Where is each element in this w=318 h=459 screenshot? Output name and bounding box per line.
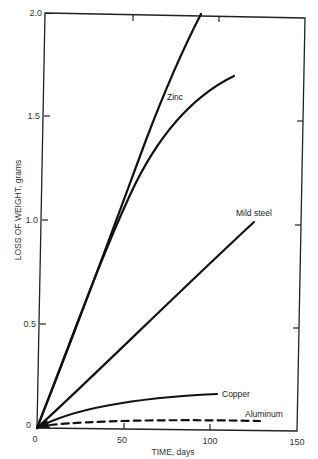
label-copper: Copper — [222, 389, 250, 399]
corrosion-weight-loss-chart: 2.0 1.5 1.0 0.5 0 0 50 100 150 TIME, day… — [0, 0, 318, 459]
label-mild-steel: Mild steel — [236, 208, 272, 218]
y-tick-label-2.0: 2.0 — [29, 8, 42, 18]
x-tick-label-150: 150 — [289, 437, 304, 447]
series-aluminum — [50, 420, 260, 425]
x-axis-title: TIME, days — [152, 447, 195, 457]
x-tick-label-0: 0 — [32, 434, 37, 444]
y-tick-label-0: 0 — [26, 420, 31, 430]
x-tick-label-100: 100 — [202, 436, 217, 446]
label-zinc: Zinc — [167, 92, 184, 102]
series-zinc-lower — [37, 76, 234, 428]
y-tick-label-1.0: 1.0 — [25, 215, 38, 225]
label-aluminum: Aluminum — [245, 409, 283, 419]
y-tick-label-0.5: 0.5 — [23, 319, 36, 329]
y-tick-label-1.5: 1.5 — [27, 111, 40, 121]
y-axis-title: LOSS OF WEIGHT, grams — [13, 160, 23, 261]
x-tick-label-50: 50 — [117, 435, 127, 445]
